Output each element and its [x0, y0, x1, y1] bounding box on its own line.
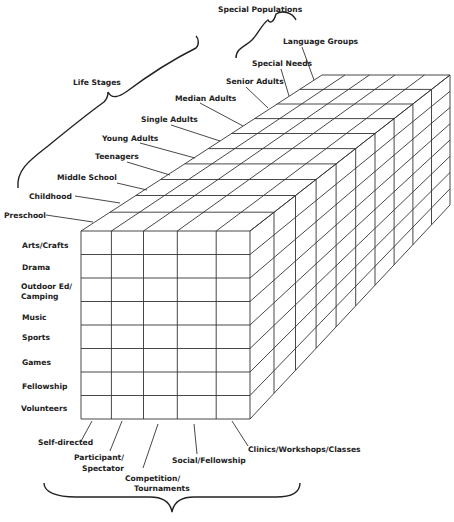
program-matrix-cube: Special Populations Life Stages Preschoo… — [0, 0, 454, 522]
col-label-self-directed: Self-directed — [38, 438, 93, 447]
special-populations-brace — [236, 12, 296, 58]
cube-grid — [81, 75, 450, 419]
depth-label-young-adults: Young Adults — [101, 134, 159, 143]
row-label-music: Music — [22, 313, 47, 322]
depth-label-senior-adults: Senior Adults — [226, 77, 284, 86]
row-label-outdoor-ed: Outdoor Ed/ — [21, 282, 72, 291]
row-label-arts-crafts: Arts/Crafts — [22, 241, 69, 250]
col-label-participant: Participant/ — [74, 453, 124, 462]
depth-label-childhood: Childhood — [29, 192, 72, 201]
col-label-social-fellowship: Social/Fellowship — [172, 456, 246, 465]
row-label-camping: Camping — [21, 292, 59, 301]
depth-label-single-adults: Single Adults — [141, 115, 198, 124]
depth-label-teenagers: Teenagers — [95, 152, 139, 161]
row-label-drama: Drama — [22, 263, 50, 272]
depth-label-middle-school: Middle School — [57, 173, 117, 182]
row-label-volunteers: Volunteers — [21, 404, 68, 413]
col-label-spectator: Spectator — [82, 464, 124, 473]
depth-label-special-needs: Special Needs — [252, 59, 313, 68]
col-label-clinics: Clinics/Workshops/Classes — [248, 445, 361, 454]
col-label-tournaments: Tournaments — [134, 484, 190, 493]
life-stages-label: Life Stages — [73, 78, 121, 87]
life-stages-brace — [18, 36, 198, 188]
depth-label-median-adults: Median Adults — [175, 94, 237, 103]
col-label-competition: Competition/ — [125, 474, 180, 483]
row-label-sports: Sports — [22, 333, 50, 342]
row-label-fellowship: Fellowship — [22, 382, 68, 391]
special-populations-label: Special Populations — [218, 5, 303, 14]
depth-label-preschool: Preschool — [4, 211, 46, 220]
depth-label-language-groups: Language Groups — [283, 37, 359, 46]
row-label-games: Games — [22, 358, 51, 367]
